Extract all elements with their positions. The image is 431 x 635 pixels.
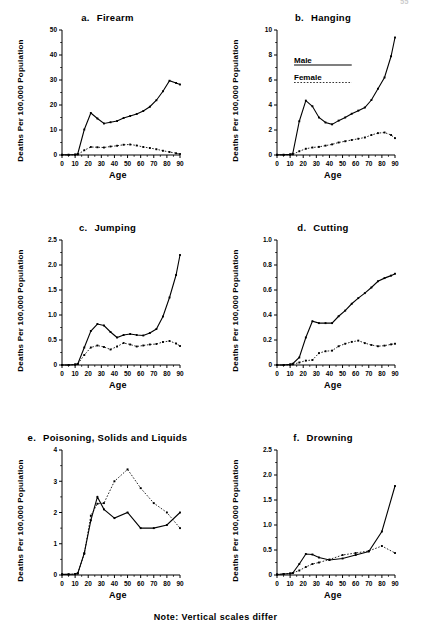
data-point-marker (127, 468, 129, 470)
panel-c-jumping: c.JumpingDeaths Per 100,000 Population00… (0, 210, 215, 420)
x-tick-label: 0 (275, 160, 279, 167)
data-point-marker (123, 334, 125, 336)
x-tick-label: 80 (378, 580, 386, 587)
data-point-marker (175, 82, 177, 84)
y-tick-label: 2 (53, 509, 57, 516)
panel-title-text: Drowning (307, 432, 353, 443)
data-point-marker (149, 332, 151, 334)
data-point-marker (318, 562, 320, 564)
data-point-marker (331, 123, 333, 125)
y-tick-label: 2.5 (263, 446, 272, 453)
data-point-marker (175, 152, 177, 154)
x-axis-label: Age (324, 170, 342, 180)
legend-label-female: Female (294, 73, 322, 82)
y-axis-label-text: Deaths Per 100,000 Population (16, 39, 25, 161)
data-point-marker (136, 113, 138, 115)
data-point-marker (364, 107, 366, 109)
data-point-marker (113, 517, 115, 519)
data-point-marker (305, 148, 307, 150)
x-tick-label: 10 (71, 160, 79, 167)
data-point-marker (149, 344, 151, 346)
x-tick-label: 30 (98, 370, 106, 377)
data-point-marker (305, 566, 307, 568)
data-point-marker (325, 145, 327, 147)
panel-title-text: Jumping (94, 222, 136, 233)
data-point-marker (292, 572, 294, 574)
data-point-marker (289, 154, 291, 156)
data-point-marker (96, 146, 98, 148)
data-point-marker (96, 496, 98, 498)
x-tick-label: 70 (365, 370, 373, 377)
data-point-marker (179, 84, 181, 86)
data-point-marker (325, 350, 327, 352)
data-point-marker (344, 117, 346, 119)
y-tick-label: 0.5 (48, 336, 57, 343)
data-point-marker (169, 340, 171, 342)
x-tick-label: 50 (339, 580, 347, 587)
panel-f-drowning: f.DrowningDeaths Per 100,000 Population0… (215, 420, 431, 612)
data-point-marker (68, 154, 70, 156)
x-tick-label: 40 (111, 370, 119, 377)
data-point-marker (162, 90, 164, 92)
x-tick-label: 90 (391, 370, 399, 377)
series-line-male (62, 497, 180, 575)
data-point-marker (390, 275, 392, 277)
data-point-marker (153, 502, 155, 504)
x-tick-label: 50 (339, 160, 347, 167)
data-point-marker (83, 129, 85, 131)
x-tick-label: 20 (300, 370, 308, 377)
data-point-marker (68, 364, 70, 366)
y-axis-label: Deaths Per 100,000 Population (229, 240, 241, 380)
data-point-marker (90, 347, 92, 349)
x-tick-label: 20 (300, 580, 308, 587)
x-tick-label: 30 (98, 580, 106, 587)
y-tick-label: 8 (268, 51, 272, 58)
data-point-marker (96, 323, 98, 325)
y-tick-label: 4 (53, 446, 57, 453)
legend-label-male: Male (294, 56, 312, 65)
series-line-male (277, 486, 395, 575)
data-point-marker (103, 147, 105, 149)
data-point-marker (129, 144, 131, 146)
data-point-marker (305, 100, 307, 102)
data-point-marker (96, 503, 98, 505)
y-tick-label: 3 (53, 478, 57, 485)
panel-title: d.Cutting (215, 222, 431, 233)
data-point-marker (351, 113, 353, 115)
data-point-marker (179, 153, 181, 155)
x-tick-label: 80 (163, 160, 171, 167)
data-point-marker (342, 558, 344, 560)
data-point-marker (325, 322, 327, 324)
panel-title-text: Cutting (313, 222, 348, 233)
data-point-marker (74, 573, 76, 575)
x-tick-label: 30 (313, 160, 321, 167)
y-tick-label: 2.5 (48, 236, 57, 243)
data-point-marker (129, 333, 131, 335)
data-point-marker (331, 350, 333, 352)
x-axis-label: Age (109, 170, 127, 180)
data-point-marker (179, 527, 181, 529)
y-tick-label: 0 (53, 571, 57, 578)
data-point-marker (390, 134, 392, 136)
data-point-marker (377, 280, 379, 282)
data-point-marker (142, 110, 144, 112)
data-point-marker (344, 310, 346, 312)
x-tick-label: 0 (275, 580, 279, 587)
y-axis-label-text: Deaths Per 100,000 Population (16, 249, 25, 371)
x-tick-label: 90 (176, 580, 184, 587)
data-point-marker (153, 527, 155, 529)
data-point-marker (140, 487, 142, 489)
data-point-marker (129, 344, 131, 346)
x-tick-label: 10 (286, 370, 294, 377)
data-point-marker (355, 552, 357, 554)
y-tick-label: 1.0 (48, 311, 57, 318)
data-point-marker (318, 146, 320, 148)
data-point-marker (61, 573, 63, 575)
data-point-marker (298, 120, 300, 122)
y-tick-label: 40 (50, 51, 58, 58)
x-tick-label: 10 (71, 370, 79, 377)
data-point-marker (142, 345, 144, 347)
x-tick-label: 80 (378, 160, 386, 167)
data-point-marker (96, 345, 98, 347)
data-point-marker (155, 99, 157, 101)
